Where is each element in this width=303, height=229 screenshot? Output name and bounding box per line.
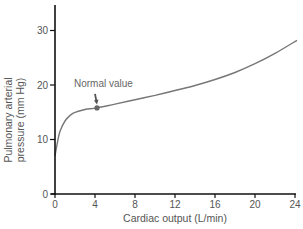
x-tick-label: 24 (289, 199, 301, 210)
y-axis-ticks: 0102030 (37, 25, 55, 200)
y-axis-title: Pulmonary arterialpressure (mm Hg) (2, 77, 26, 162)
x-tick-label: 4 (92, 199, 98, 210)
y-tick-label: 20 (37, 80, 49, 91)
data-series-line (55, 40, 297, 156)
pressure-curve (55, 40, 297, 156)
x-tick-label: 8 (132, 199, 138, 210)
annotation-normal-value: Normal value (74, 78, 133, 111)
y-tick-label: 10 (37, 134, 49, 145)
x-tick-label: 0 (52, 199, 58, 210)
x-tick-label: 12 (169, 199, 181, 210)
arrow-head-icon (94, 99, 99, 104)
x-axis-title: Cardiac output (L/min) (123, 212, 227, 224)
y-axis-title-line: Pulmonary arterial (2, 77, 14, 162)
x-tick-label: 16 (209, 199, 221, 210)
y-tick-label: 30 (37, 25, 49, 36)
chart-canvas: Normal value 04812162024 0102030 Cardiac… (0, 0, 303, 229)
y-tick-label: 0 (42, 189, 48, 200)
normal-value-dot (94, 105, 99, 110)
y-axis-title-line: pressure (mm Hg) (14, 78, 26, 163)
x-tick-label: 20 (249, 199, 261, 210)
x-axis-ticks: 04812162024 (52, 194, 301, 210)
annotation-label: Normal value (74, 78, 133, 89)
